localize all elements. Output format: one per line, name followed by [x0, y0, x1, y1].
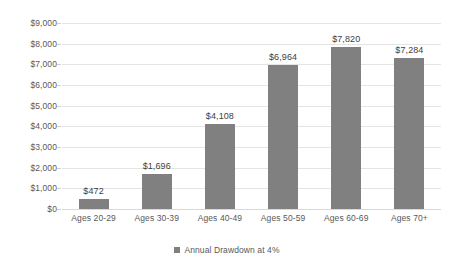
- x-axis-category-label: Ages 60-69: [324, 213, 368, 224]
- x-axis-category-label: Ages 40-49: [198, 213, 242, 224]
- y-tick-mark: [57, 188, 61, 189]
- bar-value-label: $472: [83, 186, 103, 196]
- x-axis-category-label: Ages 20-29: [71, 213, 115, 224]
- bar[interactable]: [394, 58, 424, 209]
- y-axis-tick-label: $7,000: [5, 60, 57, 69]
- bar-value-label: $4,108: [206, 111, 234, 121]
- y-tick-mark: [57, 168, 61, 169]
- y-axis-tick-label: $2,000: [5, 164, 57, 173]
- y-axis-tick-label: $6,000: [5, 81, 57, 90]
- bar-chart: $0$1,000$2,000$3,000$4,000$5,000$6,000$7…: [0, 0, 454, 261]
- legend-swatch-icon: [174, 247, 180, 253]
- y-tick-mark: [57, 64, 61, 65]
- y-tick-mark: [57, 209, 61, 210]
- y-axis-tick-label: $9,000: [5, 19, 57, 28]
- y-tick-mark: [57, 147, 61, 148]
- bar-group: $6,964: [252, 23, 315, 209]
- bar-value-label: $7,820: [332, 34, 360, 44]
- bar-group: $4,108: [188, 23, 251, 209]
- bar-group: $7,820: [315, 23, 378, 209]
- y-tick-mark: [57, 23, 61, 24]
- y-axis-tick-label: $0: [5, 205, 57, 214]
- y-tick-mark: [57, 44, 61, 45]
- y-tick-mark: [57, 106, 61, 107]
- plot-area: $472$1,696$4,108$6,964$7,820$7,284: [62, 23, 441, 209]
- bar[interactable]: [331, 47, 361, 209]
- y-axis-tick-label: $3,000: [5, 143, 57, 152]
- chart-legend: Annual Drawdown at 4%: [0, 245, 454, 255]
- x-axis-category-label: Ages 30-39: [135, 213, 179, 224]
- bar-group: $1,696: [125, 23, 188, 209]
- bar-group: $472: [62, 23, 125, 209]
- y-tick-mark: [57, 85, 61, 86]
- y-axis-tick-label: $5,000: [5, 102, 57, 111]
- x-axis-category-label: Ages 50-59: [261, 213, 305, 224]
- bar-group: $7,284: [378, 23, 441, 209]
- y-axis: $0$1,000$2,000$3,000$4,000$5,000$6,000$7…: [0, 0, 57, 261]
- x-axis: Ages 20-29Ages 30-39Ages 40-49Ages 50-59…: [62, 213, 441, 229]
- x-axis-category-label: Ages 70+: [391, 213, 428, 224]
- gridline: [62, 209, 441, 210]
- y-axis-tick-label: $8,000: [5, 40, 57, 49]
- bar[interactable]: [205, 124, 235, 209]
- y-tick-mark: [57, 126, 61, 127]
- bar-value-label: $1,696: [143, 161, 171, 171]
- y-axis-tick-label: $4,000: [5, 122, 57, 131]
- bar[interactable]: [142, 174, 172, 209]
- bar[interactable]: [268, 65, 298, 209]
- y-axis-tick-label: $1,000: [5, 184, 57, 193]
- bar-value-label: $7,284: [395, 45, 423, 55]
- bar-value-label: $6,964: [269, 52, 297, 62]
- bar[interactable]: [79, 199, 109, 209]
- legend-label: Annual Drawdown at 4%: [184, 245, 279, 255]
